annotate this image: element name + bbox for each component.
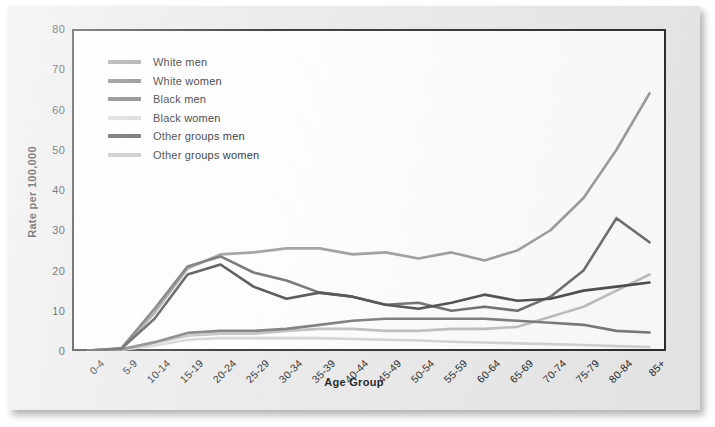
legend-item[interactable]: Black women bbox=[108, 109, 259, 128]
legend-swatch-icon bbox=[108, 97, 141, 101]
x-axis-tick: 0-4 bbox=[86, 357, 106, 377]
series-line bbox=[89, 319, 650, 351]
legend-item[interactable]: Other groups women bbox=[108, 146, 259, 165]
legend-swatch-icon bbox=[108, 116, 141, 120]
legend-item[interactable]: White women bbox=[108, 72, 259, 91]
legend-swatch-icon bbox=[108, 60, 141, 64]
legend-item[interactable]: White men bbox=[108, 53, 259, 72]
legend-label: White women bbox=[153, 75, 222, 87]
y-axis-tick: 50 bbox=[52, 144, 65, 156]
legend-item[interactable]: Black men bbox=[108, 90, 259, 109]
chart-legend: White menWhite womenBlack menBlack women… bbox=[108, 53, 259, 164]
legend-label: White men bbox=[153, 56, 207, 68]
legend-item[interactable]: Other groups men bbox=[108, 127, 259, 146]
chart-card: Rate per 100,000 Age Group 0102030405060… bbox=[8, 6, 700, 410]
legend-swatch-icon bbox=[108, 79, 141, 83]
plot-area-wrapper: 01020304050607080 0-45-910-1415-1920-242… bbox=[72, 29, 666, 351]
x-axis-tick: 5-9 bbox=[119, 357, 139, 377]
legend-label: Black women bbox=[153, 112, 221, 124]
y-axis-tick: 60 bbox=[52, 104, 65, 116]
y-axis-tick: 40 bbox=[52, 184, 65, 196]
y-axis-tick: 0 bbox=[59, 345, 65, 357]
legend-label: Other groups women bbox=[153, 149, 259, 161]
y-axis-tick: 30 bbox=[52, 224, 65, 236]
y-axis-tick: 70 bbox=[52, 63, 65, 75]
y-axis-title: Rate per 100,000 bbox=[26, 146, 38, 238]
legend-swatch-icon bbox=[108, 134, 141, 138]
y-axis-tick: 20 bbox=[52, 265, 65, 277]
legend-swatch-icon bbox=[108, 153, 141, 157]
y-axis-tick: 10 bbox=[52, 305, 65, 317]
legend-label: Black men bbox=[153, 93, 206, 105]
y-axis-tick: 80 bbox=[52, 23, 65, 35]
legend-label: Other groups men bbox=[153, 130, 245, 142]
